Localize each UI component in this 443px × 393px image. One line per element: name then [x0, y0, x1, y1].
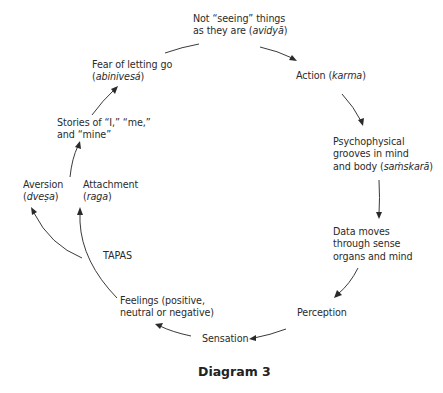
text: ) [141, 71, 145, 82]
edge-samskara-to-data [379, 180, 380, 214]
arrowhead-icon [75, 141, 81, 149]
text: Action ( [296, 70, 332, 81]
sanskrit-term: avidyā [252, 25, 283, 36]
node-feelings-line2: neutral or negative) [120, 307, 214, 319]
node-attachment-line1: Attachment [83, 179, 138, 191]
node-avidya: Not “seeing” things as they are (avidyā) [193, 13, 287, 38]
node-aversion-line2: (dveṣa) [23, 191, 63, 203]
edge-attachment-to-stories [70, 146, 78, 177]
node-feelings: Feelings (positive, neutral or negative) [120, 295, 214, 320]
edge-fear-to-avidya [165, 44, 199, 53]
node-samskara: Psychophysical grooves in mind and body … [333, 136, 433, 173]
node-attachment: Attachment (raga) [83, 179, 138, 204]
node-fear-line2: (abinivesá) [92, 71, 172, 83]
arrowhead-icon [77, 207, 83, 215]
text: as they are ( [193, 25, 252, 36]
arrowhead-icon [376, 212, 382, 219]
edge-feelings-to-aversion [34, 213, 82, 258]
text: ) [362, 70, 366, 81]
text: ) [429, 161, 433, 172]
node-data-moves-line2: through sense [333, 238, 413, 250]
node-data-moves: Data moves through sense organs and mind [333, 226, 413, 263]
sanskrit-term: dveṣa [27, 191, 55, 202]
node-samskara-line3: and body (saṁskarā) [333, 161, 433, 173]
node-fear-line1: Fear of letting go [92, 59, 172, 71]
node-data-moves-line1: Data moves [333, 226, 413, 238]
node-fear: Fear of letting go (abinivesá) [92, 59, 172, 84]
text: and body ( [333, 161, 384, 172]
sanskrit-term: abinivesá [96, 71, 141, 82]
node-data-moves-line3: organs and mind [333, 251, 413, 263]
edge-avidya-to-action [260, 47, 292, 58]
edge-action-to-samskara [342, 94, 361, 121]
sanskrit-term: saṁskarā [384, 161, 430, 172]
node-attachment-line2: (raga) [83, 191, 138, 203]
node-avidya-line2: as they are (avidyā) [193, 25, 287, 37]
arrowhead-icon [111, 86, 118, 94]
node-sensation: Sensation [202, 333, 248, 345]
arrowhead-icon [249, 335, 256, 341]
node-samskara-line1: Psychophysical [333, 136, 433, 148]
edge-stories-to-fear [92, 90, 114, 115]
node-stories: Stories of “I,” “me,” and “mine” [57, 117, 151, 142]
text: ) [55, 191, 59, 202]
node-aversion: Aversion (dveṣa) [23, 179, 63, 204]
node-action: Action (karma) [296, 70, 366, 82]
edge-perception-to-sensation [254, 329, 286, 338]
sanskrit-term: karma [332, 70, 362, 81]
arrowhead-icon [358, 118, 364, 126]
edge-data-to-perception [338, 268, 358, 294]
node-tapas: TAPAS [103, 250, 132, 262]
edge-sensation-to-feelings [160, 326, 191, 336]
node-avidya-line1: Not “seeing” things [193, 13, 287, 25]
node-stories-line2: and “mine” [57, 129, 151, 141]
node-aversion-line1: Aversion [23, 179, 63, 191]
node-feelings-line1: Feelings (positive, [120, 295, 214, 307]
arrowhead-icon [289, 55, 297, 61]
text: ) [284, 25, 288, 36]
diagram-caption: Diagram 3 [198, 364, 271, 379]
arrowhead-icon [155, 323, 163, 329]
sanskrit-term: raga [87, 191, 108, 202]
node-stories-line1: Stories of “I,” “me,” [57, 117, 151, 129]
text: ) [108, 191, 112, 202]
node-perception: Perception [297, 307, 347, 319]
node-samskara-line2: grooves in mind [333, 148, 433, 160]
